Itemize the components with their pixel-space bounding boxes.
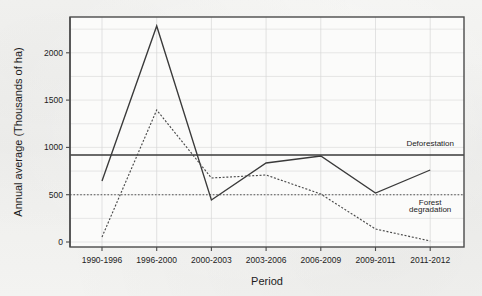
x-axis-title: Period — [251, 275, 283, 287]
x-tick-label: 2011-2012 — [410, 255, 450, 265]
y-tick-label: 2000 — [44, 48, 63, 58]
x-tick-label: 1990-1996 — [82, 255, 123, 265]
chart-svg: 0500100015002000 1990-19961996-20002000-… — [0, 0, 482, 296]
y-tick-label: 0 — [58, 237, 63, 247]
y-tick-label: 1500 — [44, 95, 63, 105]
plot-area-background — [70, 17, 464, 247]
x-tick-label: 1996-2000 — [136, 255, 177, 265]
x-tick-label: 2009-2011 — [355, 255, 395, 265]
x-axis: 1990-19961996-20002000-20032003-20062006… — [82, 247, 451, 265]
y-tick-label: 500 — [49, 190, 63, 200]
x-tick-label: 2003-2006 — [246, 255, 287, 265]
annotation-label-2: degradation — [409, 205, 451, 214]
x-tick-label: 2000-2003 — [191, 255, 232, 265]
annotation-label-0: Deforestation — [406, 139, 454, 148]
y-tick-label: 1000 — [44, 142, 63, 152]
y-axis: 0500100015002000 — [44, 17, 70, 247]
x-tick-label: 2006-2009 — [300, 255, 341, 265]
y-axis-title: Annual average (Thousands of ha) — [12, 47, 24, 216]
chart-figure: 0500100015002000 1990-19961996-20002000-… — [0, 0, 482, 296]
